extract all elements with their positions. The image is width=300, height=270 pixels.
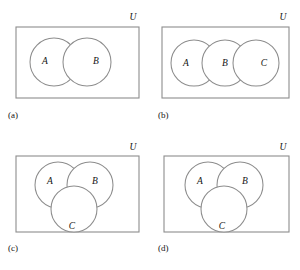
set-label-b: B [242,176,248,186]
set-label-a: A [196,176,203,186]
panel-caption-c: (c) [8,243,18,253]
set-label-c: C [219,221,226,231]
set-label-c: C [261,58,268,68]
panel-b: U A B C (b) [150,0,300,135]
universe-label-c: U [130,142,138,152]
set-circle-c [233,40,279,86]
panel-caption-d: (d) [158,243,169,253]
set-label-b: B [92,176,98,186]
set-label-a: A [182,58,189,68]
set-label-b: B [93,56,99,66]
set-label-b: B [222,58,228,68]
panel-a: U A B (a) [0,0,150,135]
set-label-a: A [46,176,53,186]
panel-caption-b: (b) [158,110,169,120]
set-label-c: C [69,221,76,231]
venn-diagram-figure: U A B (a) U A B C (b) [0,0,300,270]
panel-a-graphic: U A B (a) [0,0,150,135]
panel-caption-a: (a) [8,110,18,120]
panel-c: U A B C (c) [0,135,150,270]
set-circle-b [63,38,111,86]
panel-d-graphic: U A B C (d) [150,135,300,270]
universe-label-b: U [280,12,288,22]
universe-label-a: U [130,12,138,22]
panel-b-graphic: U A B C (b) [150,0,300,135]
universe-label-d: U [280,142,288,152]
panel-d: U A B C (d) [150,135,300,270]
panel-c-graphic: U A B C (c) [0,135,150,270]
set-label-a: A [41,56,48,66]
